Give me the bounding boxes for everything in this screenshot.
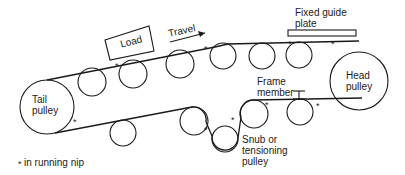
nip-marker: *	[331, 40, 335, 49]
tail-pulley-label: Tail pulley	[32, 94, 58, 116]
carrying-idler	[119, 60, 147, 88]
head-pulley-label: Head pulley	[346, 70, 372, 92]
nip-marker: *	[288, 40, 292, 49]
travel-arrow-head	[198, 31, 205, 37]
carrying-idler	[249, 43, 275, 69]
nip-marker: *	[204, 45, 208, 54]
frame-member-label: Frame member	[257, 76, 294, 98]
carrying-belt	[47, 41, 359, 80]
fixed-guide-plate-label: Fixed guide plate	[295, 7, 347, 29]
snub-pulley-label: Snub or tensioning pulley	[242, 134, 288, 167]
legend-label: in running nip	[24, 157, 84, 168]
nip-marker: *	[73, 118, 77, 127]
nip-marker: *	[115, 62, 119, 71]
nip-marker: *	[265, 101, 269, 110]
return-idler	[110, 120, 136, 146]
nip-marker: *	[204, 126, 208, 135]
nip-marker: *	[231, 116, 235, 125]
carrying-idler	[210, 43, 236, 69]
carrying-idler	[78, 68, 106, 96]
fixed-guide-plate	[288, 30, 356, 36]
return-idler	[287, 99, 313, 125]
nip-marker: *	[316, 102, 320, 111]
legend-nip-marker: *	[18, 160, 22, 169]
bend-roller	[240, 100, 268, 128]
conveyor-diagram: Load Travel Fixed guide plate Head pulle…	[0, 0, 405, 175]
snub-pulley-shape	[212, 126, 238, 152]
